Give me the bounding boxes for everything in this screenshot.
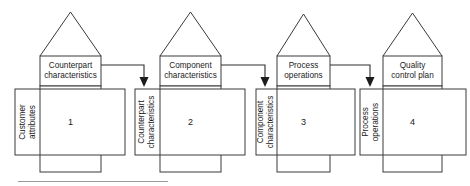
connector-1-to-2 [101,65,149,87]
house-2-roof-label: Component characteristics [156,56,225,86]
house-4-roof-triangle [383,13,442,56]
house-4-side-label: Process operations [360,89,383,155]
house-3-side-label: Component characteristics [256,89,277,155]
connector-1-to-2-path [101,65,144,78]
house-1-roof-label-text: Counterpart characteristics [44,61,97,81]
house-2-number-text: 2 [188,117,193,128]
house-1-roof-label: Counterpart characteristics [36,56,105,86]
house-1-matrix-number: 1 [40,89,101,155]
house-4-roof-label-text: Quality control plan [391,61,434,81]
house-3-roof-label-text: Process operations [284,61,322,81]
connector-2-to-3 [221,65,270,87]
connector-2-to-3-path [221,65,265,78]
connector-3-to-4 [330,65,375,87]
house-1-side-label-text: Customer attributes [18,104,38,140]
house-1-side-label: Customer attributes [15,89,40,155]
house-4-matrix-number: 4 [383,89,442,155]
house-2-side-label: Counterpart characteristics [135,89,160,155]
house-3-side-label-text: Component characteristics [257,96,277,149]
house-4-roof-label: Quality control plan [379,56,446,86]
connector-1-to-2-arrowhead [140,77,149,87]
house-4-number-text: 4 [410,117,415,128]
connector-3-to-4-path [330,65,370,78]
house-2-roof-triangle [160,12,221,56]
house-3-number-text: 3 [301,117,306,128]
house-2-side-label-text: Counterpart characteristics [138,96,158,149]
qfd-four-phase-diagram: Counterpart characteristics Customer att… [0,0,470,186]
connector-2-to-3-arrowhead [261,77,270,87]
connector-3-to-4-arrowhead [366,77,375,87]
house-3-matrix-number: 3 [277,89,330,155]
house-4-side-label-text: Process operations [362,103,382,141]
house-2-matrix-number: 2 [160,89,221,155]
house-3-roof-label: Process operations [273,56,334,86]
house-1-roof-triangle [40,12,101,56]
house-1-number-text: 1 [68,117,73,128]
house-2-roof-label-text: Component characteristics [164,61,217,81]
house-3-roof-triangle [277,14,330,56]
